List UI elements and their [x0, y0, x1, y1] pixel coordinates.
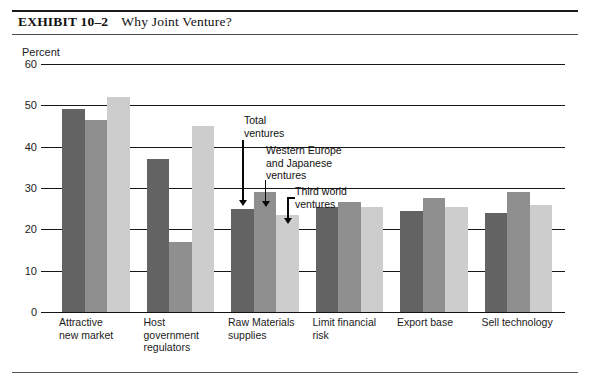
- y-axis-tick: [41, 147, 58, 148]
- y-axis-tick: [41, 105, 58, 106]
- y-axis-tick: [41, 188, 58, 189]
- bar: [316, 207, 339, 312]
- x-axis-category-label: Attractive new market: [59, 316, 113, 341]
- y-axis-tick-label: 40: [25, 141, 37, 153]
- x-axis-category-label: Export base: [397, 316, 453, 329]
- header-rule-bottom: [12, 34, 578, 35]
- x-axis-category-label: Host government regulators: [144, 316, 199, 354]
- footer-rule: [12, 372, 578, 373]
- bar: [147, 159, 170, 312]
- gridline: [58, 312, 565, 313]
- x-axis-category-label: Sell technology: [482, 316, 553, 329]
- exhibit-number: EXHIBIT 10–2: [18, 14, 108, 29]
- y-axis-tick-label: 30: [25, 182, 37, 194]
- gridline: [58, 64, 565, 65]
- bar: [423, 198, 446, 312]
- y-axis-tick-label: 50: [25, 99, 37, 111]
- bar: [85, 120, 108, 312]
- bar: [62, 109, 85, 312]
- bar: [507, 192, 530, 312]
- bar: [445, 207, 468, 312]
- bar: [192, 126, 215, 312]
- y-axis-tick-label: 0: [31, 306, 37, 318]
- x-axis-category-label: Raw Materials supplies: [228, 316, 295, 341]
- bar: [338, 202, 361, 312]
- gridline: [58, 105, 565, 106]
- y-axis-tick: [41, 312, 58, 313]
- bar: [231, 209, 254, 312]
- y-axis-title: Percent: [22, 46, 60, 58]
- y-axis-tick-label: 10: [25, 265, 37, 277]
- bar: [107, 97, 130, 312]
- annotation-arrow-western-europe-japanese: Western Europe and Japanese ventures: [266, 144, 342, 182]
- annotation-third-world-ventures: Third world ventures: [295, 185, 347, 210]
- exhibit-header: EXHIBIT 10–2Why Joint Venture?: [18, 14, 232, 30]
- y-axis-tick: [41, 271, 58, 272]
- exhibit-title-text: Why Joint Venture?: [121, 14, 232, 29]
- y-axis-tick-label: 20: [25, 223, 37, 235]
- bar: [169, 242, 192, 312]
- exhibit-figure: EXHIBIT 10–2Why Joint Venture? Percent 0…: [0, 0, 590, 386]
- bar: [276, 215, 299, 312]
- bar: [254, 192, 277, 312]
- bar: [485, 213, 508, 312]
- y-axis-tick: [41, 64, 58, 65]
- y-axis-tick-label: 60: [25, 58, 37, 70]
- header-rule-top: [12, 10, 578, 12]
- bar: [361, 207, 384, 312]
- x-axis-category-label: Limit financial risk: [313, 316, 377, 341]
- bar: [530, 205, 553, 312]
- bar: [400, 211, 423, 312]
- annotation-total-ventures: Total ventures: [244, 114, 284, 139]
- y-axis-tick: [41, 229, 58, 230]
